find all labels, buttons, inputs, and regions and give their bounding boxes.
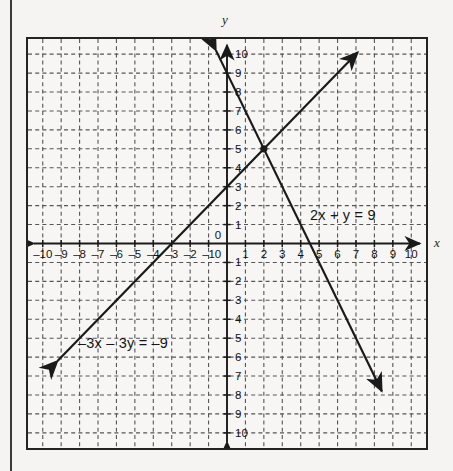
x-tick-label-4: 4: [297, 248, 304, 260]
y-tick-label-1: 1: [235, 219, 241, 231]
y-tick-label-neg-9: 9: [235, 408, 241, 420]
y-tick-label-neg-3: 3: [235, 294, 241, 306]
y-tick-label-5: 5: [235, 143, 241, 155]
y-axis-name-label: y: [222, 12, 228, 28]
intersection-point: [260, 145, 267, 152]
y-tick-label-neg-1: 1: [235, 256, 241, 268]
y-tick-label-10: 10: [235, 48, 248, 60]
x-tick-label--2: –2: [184, 248, 197, 260]
x-tick-label--3: –3: [165, 248, 178, 260]
x-tick-label-5: 5: [316, 248, 322, 260]
x-tick-label--9: –9: [55, 248, 68, 260]
y-tick-label-4: 4: [235, 162, 242, 174]
graph-frame: –10–9–8–7–6–5–4–3–2–10012345678910123456…: [26, 37, 428, 450]
x-tick-label-6: 6: [334, 248, 340, 260]
y-tick-label-neg-2: 2: [235, 275, 241, 287]
axis-lines: [34, 45, 420, 442]
y-tick-label-neg-10: 10: [235, 427, 248, 439]
y-tick-label-2: 2: [235, 200, 241, 212]
plot-svg: –10–9–8–7–6–5–4–3–2–10012345678910123456…: [28, 39, 426, 448]
x-tick-label-0: 0: [215, 248, 221, 260]
y-tick-label-neg-6: 6: [235, 351, 241, 363]
y-tick-label-neg-4: 4: [235, 313, 242, 325]
x-tick-label-8: 8: [371, 248, 377, 260]
worksheet-page: y x –10–9–8–7–6–5–4–3–2–1001234567891012…: [0, 0, 453, 471]
y-tick-label-6: 6: [235, 124, 241, 136]
x-axis-name-label: x: [434, 235, 440, 251]
x-tick-label--10: –10: [33, 248, 52, 260]
y-tick-label-neg-5: 5: [235, 332, 241, 344]
equation-label-minus-3x-minus-3y-equals-minus-9: –3x – 3y = –9: [78, 335, 168, 351]
x-tick-label-9: 9: [390, 248, 396, 260]
x-tick-label--5: –5: [128, 248, 141, 260]
x-tick-label--1: –1: [202, 248, 215, 260]
x-tick-label-10: 10: [405, 248, 418, 260]
x-tick-label--7: –7: [92, 248, 105, 260]
coordinate-plane: –10–9–8–7–6–5–4–3–2–10012345678910123456…: [28, 39, 426, 448]
y-tick-label-neg-7: 7: [235, 370, 241, 382]
equation-label-2x-plus-y-equals-9: 2x + y = 9: [310, 207, 376, 223]
x-tick-label-1: 1: [242, 248, 248, 260]
x-tick-label-7: 7: [353, 248, 359, 260]
y-tick-label-neg-8: 8: [235, 389, 241, 401]
page-margin-rule: [10, 0, 12, 471]
y-tick-label-3: 3: [235, 181, 241, 193]
y-tick-label-9: 9: [235, 67, 241, 79]
x-tick-label-2: 2: [261, 248, 267, 260]
x-tick-label-3: 3: [279, 248, 285, 260]
x-tick-label--8: –8: [73, 248, 86, 260]
y-tick-label-8: 8: [235, 86, 241, 98]
x-tick-label--4: –4: [147, 248, 160, 260]
y-tick-label-7: 7: [235, 105, 241, 117]
y-tick-label-0: 0: [215, 229, 221, 241]
x-tick-label--6: –6: [110, 248, 123, 260]
data-points: [260, 145, 267, 152]
